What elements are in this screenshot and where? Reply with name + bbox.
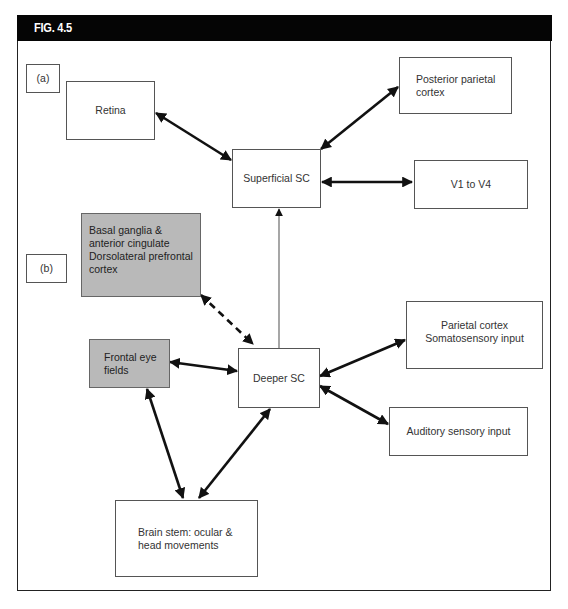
- node-auditory: Auditory sensory input: [389, 407, 528, 456]
- panel-label-a-text: (a): [37, 72, 50, 85]
- node-deeper-sc: Deeper SC: [238, 348, 320, 408]
- node-v1-v4-label: V1 to V4: [451, 178, 491, 191]
- node-posterior-parietal: Posterior parietal cortex: [399, 57, 512, 114]
- edge-retina-superficial: [156, 113, 231, 160]
- node-retina-label: Retina: [95, 104, 125, 117]
- node-superficial-sc: Superficial SC: [232, 149, 321, 208]
- node-retina: Retina: [66, 81, 155, 140]
- node-parietal-somatosensory: Parietal cortex Somatosensory input: [406, 301, 543, 369]
- node-brain-stem-label: Brain stem: ocular & head movements: [138, 526, 233, 552]
- node-v1-v4: V1 to V4: [414, 160, 528, 209]
- node-posterior-parietal-label: Posterior parietal cortex: [416, 73, 495, 99]
- node-basal-ganglia: Basal ganglia & anterior cingulate Dorso…: [81, 213, 201, 297]
- node-parietal-somatosensory-label: Parietal cortex Somatosensory input: [425, 319, 524, 345]
- edge-superficial-posterior-parietal: [321, 87, 398, 149]
- node-superficial-sc-label: Superficial SC: [243, 172, 310, 185]
- node-deeper-sc-label: Deeper SC: [253, 372, 305, 385]
- edge-deeper-parietal: [320, 340, 405, 376]
- edge-frontal-brainstem: [147, 389, 183, 498]
- node-brain-stem: Brain stem: ocular & head movements: [115, 500, 258, 577]
- panel-label-a: (a): [26, 64, 60, 93]
- edge-basal-deeper-dashed: [201, 295, 253, 344]
- edge-deeper-brainstem: [199, 409, 270, 498]
- edge-frontal-deeper: [170, 362, 237, 371]
- node-auditory-label: Auditory sensory input: [407, 425, 511, 438]
- node-frontal-eye-fields-label: Frontal eye fields: [104, 351, 157, 377]
- node-frontal-eye-fields: Frontal eye fields: [89, 339, 170, 388]
- panel-label-b: (b): [26, 254, 67, 283]
- panel-label-b-text: (b): [40, 262, 53, 275]
- node-basal-ganglia-label: Basal ganglia & anterior cingulate Dorso…: [89, 224, 193, 276]
- edge-deeper-auditory: [320, 386, 388, 424]
